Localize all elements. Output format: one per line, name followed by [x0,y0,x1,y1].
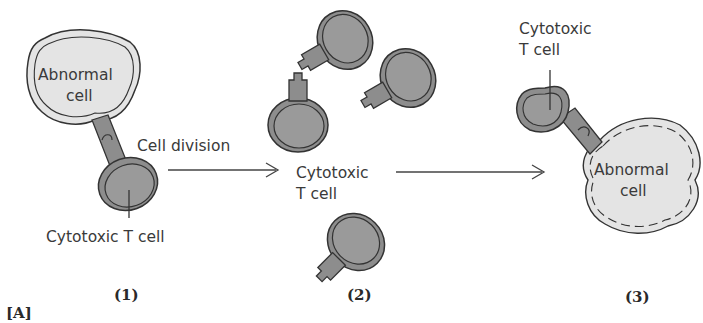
step-3-group: Cytotoxic T cell Abnormal cell (3) [517,20,700,306]
step-number-1: (1) [114,286,139,304]
arrow-2 [396,165,544,179]
step-2-group: Cytotoxic T cell (2) [268,1,446,304]
tcell-label-2a: Cytotoxic [296,164,369,182]
panel-label: [A] [6,304,32,322]
tcell-label-3a: Cytotoxic [519,20,592,38]
tcell-label-1: Cytotoxic T cell [46,228,165,246]
tcell-label-3b: T cell [518,41,560,59]
step-1-group: Abnormal cell Cell division Cytotoxic T … [27,30,230,304]
abnormal-cell-label-3b: cell [620,182,647,200]
abnormal-cell-label-1b: cell [66,87,93,105]
tcell-label-2b: T cell [295,185,337,203]
cell-division-label: Cell division [137,137,230,155]
diagram-canvas: Abnormal cell Cell division Cytotoxic T … [0,0,703,323]
tcell-2b [268,73,328,152]
step-number-3: (3) [625,288,650,306]
abnormal-cell-label-1a: Abnormal [38,66,113,84]
arrow-1 [168,163,278,177]
abnormal-cell-label-3a: Abnormal [594,161,669,179]
step-number-2: (2) [347,286,372,304]
